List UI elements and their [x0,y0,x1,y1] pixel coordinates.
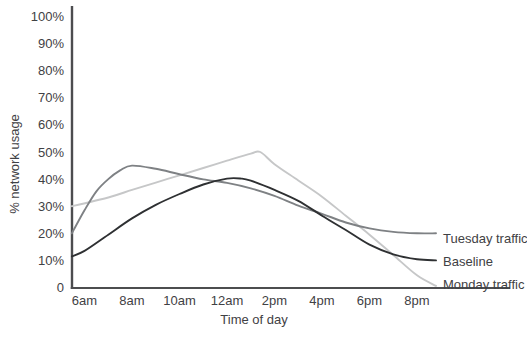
legend-label-tuesday-traffic: Tuesday traffic [443,231,527,246]
y-tick-label: 40% [38,172,64,187]
y-tick-label: 10% [38,253,64,268]
y-tick-label: 60% [38,117,64,132]
x-tick-label: 8am [119,293,144,308]
y-tick-label: 70% [38,90,64,105]
y-tick-label: 100% [31,9,65,24]
x-tick-label: 4pm [309,293,334,308]
x-tick-label: 12am [211,293,244,308]
x-tick-label: 6am [72,293,97,308]
y-tick-label: 20% [38,226,64,241]
legend-label-monday-traffic: Monday traffic [443,277,524,292]
monday-traffic-line [72,151,436,286]
x-tick-label: 6pm [357,293,382,308]
y-tick-label: 0 [57,280,64,295]
y-tick-label: 30% [38,199,64,214]
legend-label-baseline: Baseline [443,254,493,269]
tuesday-traffic-line [72,166,436,234]
baseline-line [72,178,436,260]
x-tick-label: 10am [163,293,196,308]
x-axis-title: Time of day [220,312,287,327]
y-tick-label: 90% [38,36,64,51]
y-axis-title: % network usage [7,114,22,214]
network-usage-chart: 100%90%80%70%60%50%40%30%20%10%06am8am10… [0,0,527,340]
y-tick-label: 80% [38,63,64,78]
x-tick-label: 8pm [404,293,429,308]
x-tick-label: 2pm [262,293,287,308]
y-tick-label: 50% [38,145,64,160]
